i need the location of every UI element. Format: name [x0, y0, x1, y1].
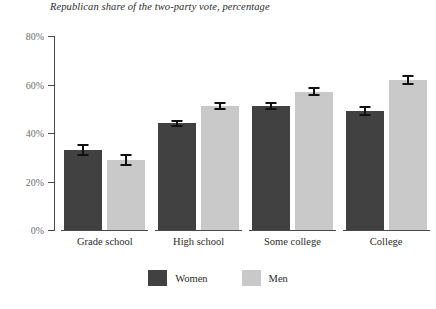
error-bar-cap-bottom [215, 108, 226, 110]
legend-item-women[interactable]: Women [148, 270, 207, 286]
y-axis-label: 20% [4, 176, 44, 187]
x-axis-label-college: College [370, 236, 403, 247]
bar-group [252, 36, 333, 230]
y-axis-tick [48, 133, 54, 134]
error-bar-cap-bottom [172, 125, 183, 127]
y-axis-tick [48, 230, 54, 231]
legend-label: Women [175, 273, 207, 284]
bar-group [158, 36, 239, 230]
error-bar [82, 144, 84, 156]
error-bar-cap-bottom [265, 108, 276, 110]
error-bar-cap-bottom [121, 164, 132, 166]
legend-swatch-icon [148, 270, 167, 286]
error-bar [270, 102, 272, 110]
error-bar [176, 120, 178, 127]
error-bar-cap-bottom [402, 83, 413, 85]
bar-women-some-college[interactable] [252, 106, 290, 230]
plot-area [55, 36, 430, 230]
legend-label: Men [269, 273, 288, 284]
bar-women-college[interactable] [346, 111, 384, 230]
bar-group [64, 36, 145, 230]
bar-women-grade-school[interactable] [64, 150, 102, 230]
y-axis-label: 40% [4, 128, 44, 139]
chart-legend: WomenMen [0, 270, 436, 286]
x-axis-label-high-school: High school [173, 236, 224, 247]
error-bar-cap-top [402, 75, 413, 77]
legend-swatch-icon [242, 270, 261, 286]
y-axis-label: 0% [4, 225, 44, 236]
legend-item-men[interactable]: Men [242, 270, 288, 286]
chart-title: Republican share of the two-party vote, … [50, 1, 270, 12]
bar-women-high-school[interactable] [158, 123, 196, 230]
y-axis-label: 60% [4, 79, 44, 90]
bar-men-grade-school[interactable] [107, 160, 145, 230]
error-bar-cap-top [172, 120, 183, 122]
error-bar [219, 102, 221, 110]
chart-container: Republican share of the two-party vote, … [0, 0, 436, 309]
error-bar-cap-top [308, 87, 319, 89]
y-axis-tick [48, 85, 54, 86]
error-bar [313, 87, 315, 96]
y-axis-label: 80% [4, 31, 44, 42]
x-axis-label-some-college: Some college [264, 236, 321, 247]
error-bar-cap-top [265, 102, 276, 104]
y-axis-tick [48, 182, 54, 183]
error-bar [125, 154, 127, 166]
error-bar-cap-top [359, 106, 370, 108]
bar-men-college[interactable] [389, 80, 427, 230]
y-axis-tick [48, 36, 54, 37]
error-bar-cap-bottom [308, 94, 319, 96]
error-bar [407, 75, 409, 85]
bar-men-high-school[interactable] [201, 106, 239, 230]
bar-men-some-college[interactable] [295, 92, 333, 230]
error-bar [364, 106, 366, 116]
error-bar-cap-top [121, 154, 132, 156]
bar-group [346, 36, 427, 230]
x-axis-label-grade-school: Grade school [77, 236, 133, 247]
error-bar-cap-top [215, 102, 226, 104]
error-bar-cap-bottom [78, 154, 89, 156]
error-bar-cap-top [78, 144, 89, 146]
error-bar-cap-bottom [359, 114, 370, 116]
